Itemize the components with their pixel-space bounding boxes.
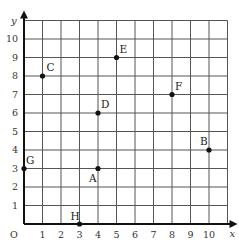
- y-axis-label: y: [11, 16, 17, 26]
- x-tick-label: 3: [77, 230, 83, 240]
- point-g-label: G: [26, 155, 34, 166]
- x-axis-arrow-icon: [230, 220, 238, 228]
- point-c-marker: [40, 73, 45, 78]
- point-h-marker: [77, 221, 82, 226]
- y-tick-label: 1: [12, 201, 18, 211]
- point-d-label: D: [101, 99, 109, 110]
- point-e-marker: [114, 55, 119, 60]
- y-tick-label: 8: [12, 71, 18, 81]
- coordinate-grid-diagram: 1234567891012345678910OxyABCDEFGH: [0, 0, 239, 247]
- x-axis-label: x: [230, 229, 236, 239]
- x-tick-label: 5: [114, 230, 120, 240]
- y-tick-label: 2: [12, 182, 18, 192]
- x-tick-label: 7: [151, 230, 157, 240]
- x-tick-label: 2: [58, 230, 64, 240]
- point-b-marker: [206, 147, 211, 152]
- point-e-label: E: [120, 44, 128, 55]
- point-a-label: A: [89, 173, 97, 184]
- point-g-marker: [21, 166, 26, 171]
- point-b-label: B: [200, 136, 208, 147]
- point-a-marker: [95, 166, 100, 171]
- x-tick-label: 8: [169, 230, 175, 240]
- y-tick-label: 3: [12, 164, 18, 174]
- x-tick-label: 9: [188, 230, 194, 240]
- point-f-label: F: [175, 81, 182, 92]
- point-c-label: C: [47, 62, 55, 73]
- x-tick-label: 1: [40, 230, 46, 240]
- point-d-marker: [95, 110, 100, 115]
- point-f-marker: [169, 92, 174, 97]
- y-tick-label: 6: [12, 108, 18, 118]
- y-axis-arrow-icon: [20, 11, 28, 19]
- origin-label: O: [10, 230, 18, 240]
- x-tick-label: 6: [132, 230, 138, 240]
- y-tick-label: 10: [6, 34, 18, 44]
- y-tick-label: 7: [12, 90, 18, 100]
- x-tick-label: 10: [203, 230, 215, 240]
- x-tick-label: 4: [95, 230, 101, 240]
- grid-svg: [0, 0, 239, 247]
- point-h-label: H: [71, 211, 80, 222]
- y-tick-label: 9: [12, 53, 18, 63]
- y-tick-label: 4: [12, 145, 18, 155]
- y-tick-label: 5: [12, 127, 18, 137]
